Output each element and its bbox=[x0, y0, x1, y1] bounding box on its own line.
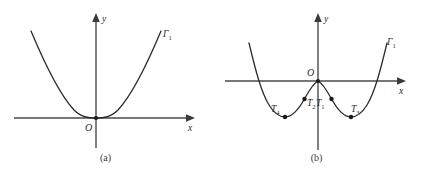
x-axis-label-a: x bbox=[187, 123, 193, 133]
figure-root: y x O Γ1 (a) bbox=[0, 0, 422, 177]
x-axis-label-b: x bbox=[398, 86, 404, 96]
figure-panel-b: y x O Γ1 T4 T2 T1 T3 bbox=[211, 0, 422, 177]
origin-label-b: O bbox=[307, 67, 314, 78]
y-axis-label-b: y bbox=[323, 14, 329, 24]
curve-label-a: Γ1 bbox=[162, 29, 172, 41]
marked-point-label-t3-subscript: 3 bbox=[356, 109, 360, 116]
marked-point-label-t3: T3 bbox=[351, 104, 360, 116]
marked-point-label-t2: T2 bbox=[307, 98, 316, 110]
marked-point-label-t4: T4 bbox=[271, 104, 280, 116]
marked-point-label-t4-subscript: 4 bbox=[276, 109, 280, 116]
origin-label-a: O bbox=[85, 122, 92, 133]
figure-panel-a: y x O Γ1 (a) bbox=[0, 0, 211, 177]
curve-label-a-subscript: 1 bbox=[168, 34, 171, 41]
curve-label-b: Γ1 bbox=[386, 37, 396, 49]
panel-b-caption: (b) bbox=[211, 152, 422, 163]
marked-point-label-t1-subscript: 1 bbox=[321, 103, 324, 110]
curve-label-b-subscript: 1 bbox=[392, 42, 395, 49]
marked-point-label-t1: T1 bbox=[316, 98, 325, 110]
y-axis-label-a: y bbox=[101, 14, 107, 24]
panel-a-caption: (a) bbox=[0, 152, 211, 163]
